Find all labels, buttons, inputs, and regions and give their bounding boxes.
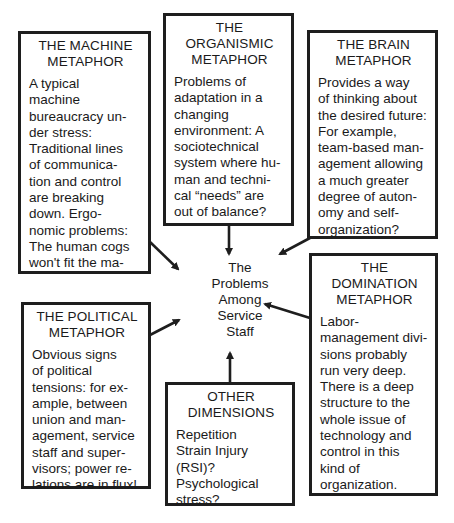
title-line: OTHER	[176, 389, 286, 405]
brain-metaphor-box: THE BRAIN METAPHOR Provides a way of thi…	[307, 30, 438, 239]
title-line: METAPHOR	[318, 53, 429, 69]
title-line: THE	[174, 20, 285, 36]
body-line: visors; power re-	[32, 461, 142, 477]
body-line: agement allowing	[318, 156, 429, 172]
body-line: control in this	[320, 444, 429, 460]
box-title: OTHER DIMENSIONS	[176, 389, 286, 421]
body-line: organization.	[320, 477, 429, 493]
arrow-brain	[280, 238, 310, 254]
body-line: won't fit the ma-	[29, 255, 142, 271]
center-line: The	[185, 260, 295, 276]
box-body: Obvious signs of political tensions: for…	[32, 347, 142, 494]
title-line: METAPHOR	[32, 325, 142, 341]
body-line: degree of auton-	[318, 189, 429, 205]
body-line: run very deep.	[320, 363, 429, 379]
body-line: Obvious signs	[32, 347, 142, 363]
title-line: THE POLITICAL	[32, 309, 142, 325]
box-title: THE POLITICAL METAPHOR	[32, 309, 142, 341]
box-body: Labor- management divi- sions probably r…	[320, 314, 429, 493]
body-line: There is a deep	[320, 379, 429, 395]
body-line: For example,	[318, 124, 429, 140]
body-line: A typical	[29, 76, 142, 92]
body-line: changing	[174, 107, 285, 123]
body-line: technology and	[320, 428, 429, 444]
body-line: organization?	[318, 222, 429, 238]
body-line: are breaking	[29, 190, 142, 206]
body-line: stress?	[176, 492, 286, 508]
body-line: whole issue of	[320, 412, 429, 428]
arrow-political	[150, 320, 179, 335]
title-line: METAPHOR	[174, 52, 285, 68]
body-line: sions probably	[320, 347, 429, 363]
title-line: METAPHOR	[320, 292, 429, 308]
body-line: adaptation in a	[174, 90, 285, 106]
machine-metaphor-box: THE MACHINE METAPHOR A typical machine b…	[18, 31, 151, 274]
body-line: out of balance?	[174, 204, 285, 220]
body-line: tion and control	[29, 174, 142, 190]
body-line: staff and super-	[32, 445, 142, 461]
body-line: a much greater	[318, 173, 429, 189]
box-title: THE DOMINATION METAPHOR	[320, 260, 429, 308]
body-line: union and man-	[32, 412, 142, 428]
body-line: Repetition	[176, 427, 286, 443]
body-line: kind of	[320, 461, 429, 477]
body-line: of communica-	[29, 157, 142, 173]
box-title: THE MACHINE METAPHOR	[29, 38, 142, 70]
political-metaphor-box: THE POLITICAL METAPHOR Obvious signs of …	[21, 302, 151, 489]
title-line: THE	[320, 260, 429, 276]
center-line: Staff	[185, 324, 295, 340]
box-title: THE BRAIN METAPHOR	[318, 37, 429, 69]
organismic-metaphor-box: THE ORGANISMIC METAPHOR Problems of adap…	[163, 13, 294, 226]
body-line: The human cogs	[29, 239, 142, 255]
center-line: Service	[185, 308, 295, 324]
body-line: management divi-	[320, 330, 429, 346]
body-line: of political	[32, 363, 142, 379]
box-body: Problems of adaptation in a changing env…	[174, 74, 285, 221]
body-line: omy and self-	[318, 205, 429, 221]
central-problem: The Problems Among Service Staff	[185, 260, 295, 340]
body-line: cal “needs” are	[174, 188, 285, 204]
title-line: ORGANISMIC	[174, 36, 285, 52]
body-line: Traditional lines	[29, 141, 142, 157]
domination-metaphor-box: THE DOMINATION METAPHOR Labor- managemen…	[309, 253, 438, 496]
title-line: THE MACHINE	[29, 38, 142, 54]
arrow-machine	[149, 241, 178, 269]
title-line: DIMENSIONS	[176, 405, 286, 421]
body-line: system where hu-	[174, 155, 285, 171]
body-line: der stress:	[29, 125, 142, 141]
body-line: environment: A	[174, 123, 285, 139]
body-line: team-based man-	[318, 140, 429, 156]
body-line: Psychological	[176, 476, 286, 492]
body-line: nomic problems:	[29, 223, 142, 239]
body-line: machine	[29, 92, 142, 108]
center-line: Problems	[185, 276, 295, 292]
box-title: THE ORGANISMIC METAPHOR	[174, 20, 285, 68]
title-line: DOMINATION	[320, 276, 429, 292]
box-body: Provides a way of thinking about the des…	[318, 75, 429, 238]
body-line: Provides a way	[318, 75, 429, 91]
title-line: METAPHOR	[29, 54, 142, 70]
box-body: Repetition Strain Injury (RSI)? Psycholo…	[176, 427, 286, 508]
body-line: sociotechnical	[174, 139, 285, 155]
body-line: (RSI)?	[176, 460, 286, 476]
body-line: the desired future:	[318, 108, 429, 124]
body-line: Problems of	[174, 74, 285, 90]
body-line: man and techni-	[174, 172, 285, 188]
body-line: structure to the	[320, 395, 429, 411]
body-line: ample, between	[32, 396, 142, 412]
center-line: Among	[185, 292, 295, 308]
body-line: Strain Injury	[176, 443, 286, 459]
box-body: A typical machine bureaucracy un- der st…	[29, 76, 142, 272]
body-line: Labor-	[320, 314, 429, 330]
body-line: down. Ergo-	[29, 206, 142, 222]
body-line: bureaucracy un-	[29, 109, 142, 125]
body-line: agement, service	[32, 428, 142, 444]
other-dimensions-box: OTHER DIMENSIONS Repetition Strain Injur…	[165, 382, 295, 506]
title-line: THE BRAIN	[318, 37, 429, 53]
body-line: lations are in flux!	[32, 477, 142, 493]
body-line: of thinking about	[318, 91, 429, 107]
body-line: tensions: for ex-	[32, 380, 142, 396]
